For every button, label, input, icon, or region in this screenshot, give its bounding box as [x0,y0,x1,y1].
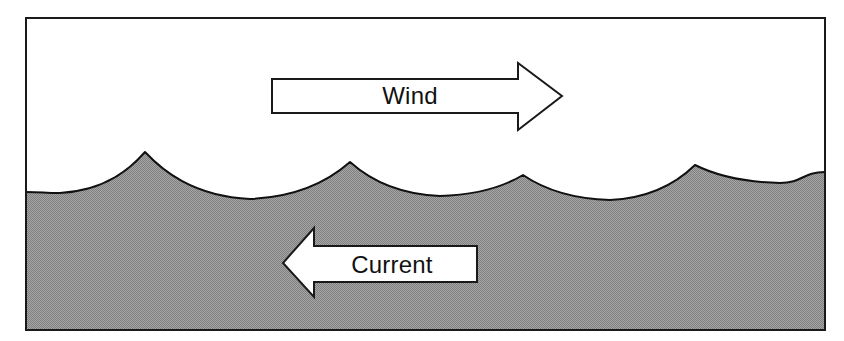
figure-root: Wind Current [0,0,844,341]
wind-arrow-label: Wind [382,82,437,109]
wind-current-diagram: Wind Current [0,0,844,341]
current-arrow-label: Current [351,251,433,278]
